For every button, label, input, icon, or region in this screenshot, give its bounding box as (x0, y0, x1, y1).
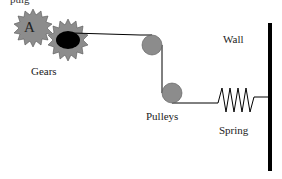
gear-a-label: A (24, 19, 35, 36)
pulleys-label: Pulleys (146, 110, 178, 122)
spring (218, 88, 268, 112)
gears-label: Gears (31, 65, 57, 77)
pulley-upper (142, 35, 162, 55)
gear-b (48, 19, 88, 61)
wall-label: Wall (223, 33, 244, 45)
gear-hub (56, 31, 80, 49)
mechanism-diagram (0, 0, 282, 179)
wall (268, 23, 272, 171)
pulley-lower (162, 83, 182, 103)
spring-label: Spring (219, 124, 248, 136)
